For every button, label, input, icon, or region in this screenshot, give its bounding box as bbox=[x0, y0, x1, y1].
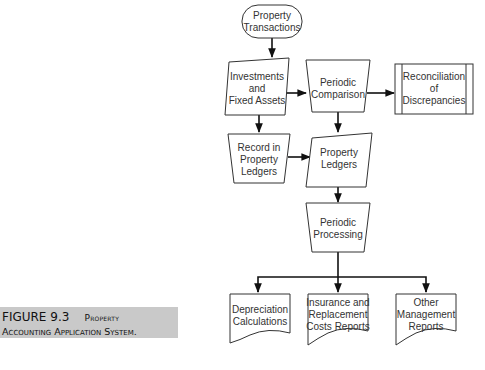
node-label: Insurance and bbox=[306, 297, 369, 308]
caption-line-1: FIGURE 9.3 Property bbox=[2, 309, 178, 325]
node-label: Management bbox=[397, 309, 456, 320]
node-property-ledgers: Property Ledgers bbox=[306, 133, 372, 187]
node-insurance: Insurance and Replacement Costs Reports bbox=[306, 294, 369, 345]
node-label: Calculations bbox=[233, 316, 287, 327]
node-label: Property bbox=[240, 154, 278, 165]
node-periodic-comparison: Periodic Comparison bbox=[306, 60, 370, 112]
figure-title-line-2: Accounting Application System. bbox=[2, 325, 178, 338]
node-record-ledgers: Record in Property Ledgers bbox=[228, 134, 290, 183]
node-property-transactions: Property Transactions bbox=[242, 5, 302, 38]
node-label: Other bbox=[413, 297, 439, 308]
node-label: Comparison bbox=[311, 89, 365, 100]
node-periodic-processing: Periodic Processing bbox=[306, 203, 370, 252]
node-label: Ledgers bbox=[241, 166, 277, 177]
node-label: Periodic bbox=[320, 217, 356, 228]
node-label: Ledgers bbox=[321, 159, 357, 170]
node-reconciliation: Reconciliation of Discrepancies bbox=[395, 64, 473, 114]
node-label: Reports bbox=[408, 321, 443, 332]
figure-number: FIGURE 9.3 bbox=[2, 310, 69, 324]
node-label: Transactions bbox=[244, 22, 301, 33]
node-label: Periodic bbox=[320, 77, 356, 88]
figure-caption: FIGURE 9.3 Property Accounting Applicati… bbox=[0, 307, 178, 338]
node-depreciation: Depreciation Calculations bbox=[230, 294, 290, 343]
node-other-reports: Other Management Reports bbox=[396, 294, 456, 345]
node-label: Processing bbox=[313, 229, 362, 240]
node-investments: Investments and Fixed Assets bbox=[225, 58, 289, 115]
figure-title-line-1: Property bbox=[85, 313, 119, 323]
node-label: Depreciation bbox=[232, 304, 288, 315]
node-label: Investments bbox=[230, 71, 284, 82]
node-label: and bbox=[249, 83, 266, 94]
node-label: Reconciliation bbox=[403, 71, 465, 82]
node-label: of bbox=[430, 83, 439, 94]
node-label: Discrepancies bbox=[403, 95, 466, 106]
node-label: Costs Reports bbox=[306, 321, 369, 332]
node-label: Property bbox=[253, 10, 291, 21]
node-label: Property bbox=[320, 147, 358, 158]
node-label: Replacement bbox=[309, 309, 368, 320]
node-label: Fixed Assets bbox=[229, 95, 286, 106]
node-label: Record in bbox=[238, 142, 281, 153]
branch-line bbox=[258, 277, 426, 292]
